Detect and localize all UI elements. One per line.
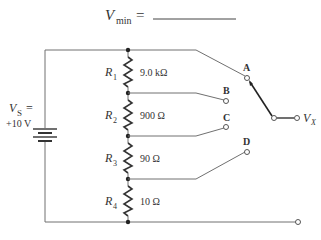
switch-arm[interactable]: [250, 82, 272, 116]
battery-icon: [33, 129, 57, 141]
junction-dot: [126, 48, 130, 52]
switch-label-B: B: [223, 85, 230, 96]
svg-text:R: R: [104, 65, 113, 79]
switch-terminal-D[interactable]: [245, 150, 250, 155]
resistor-r1-icon: [124, 57, 132, 87]
ground-terminal: [296, 220, 301, 225]
svg-text:=: =: [26, 101, 33, 115]
svg-text:R: R: [104, 194, 113, 208]
switch-terminal-A[interactable]: [245, 76, 250, 81]
svg-text:9.0 kΩ: 9.0 kΩ: [140, 67, 167, 78]
circuit-diagram: V min = V S = +10 V R 1 9.0 kΩ: [0, 0, 321, 240]
vx-label: V X: [303, 111, 317, 127]
switch-pivot: [272, 116, 277, 121]
switch-terminal-C[interactable]: [224, 125, 229, 130]
svg-text:S: S: [17, 108, 22, 118]
junction-dot: [126, 220, 130, 224]
svg-text:10 Ω: 10 Ω: [140, 196, 160, 207]
resistor-r2-icon: [124, 100, 132, 130]
switch-label-D: D: [243, 136, 250, 147]
r1-label: R 1 9.0 kΩ: [104, 65, 167, 82]
svg-text:90 Ω: 90 Ω: [140, 153, 160, 164]
wire-tap-B: [128, 93, 224, 100]
switch-terminal-B[interactable]: [224, 99, 229, 104]
vmin-label: V min =: [105, 7, 144, 26]
switch-label-C: C: [223, 112, 230, 123]
svg-text:900 Ω: 900 Ω: [140, 110, 165, 121]
svg-text:X: X: [310, 118, 317, 127]
resistor-r4-icon: [124, 186, 132, 216]
svg-text:2: 2: [113, 116, 117, 125]
svg-text:+10 V: +10 V: [6, 118, 32, 129]
svg-text:4: 4: [113, 202, 117, 211]
wire-bottom: [45, 141, 296, 222]
svg-text:R: R: [104, 151, 113, 165]
vmin-subscript: min: [116, 15, 132, 26]
wire-tap-C: [128, 128, 224, 136]
switch-label-A: A: [243, 62, 251, 73]
resistor-r3-icon: [124, 143, 132, 173]
vs-label: V S = +10 V: [6, 101, 33, 129]
r2-label: R 2 900 Ω: [104, 108, 165, 125]
vmin-symbol: V: [105, 7, 116, 23]
svg-text:3: 3: [113, 159, 117, 168]
svg-text:1: 1: [113, 73, 117, 82]
vx-terminal[interactable]: [295, 116, 300, 121]
vmin-equals: =: [136, 7, 144, 23]
svg-text:R: R: [104, 108, 113, 122]
